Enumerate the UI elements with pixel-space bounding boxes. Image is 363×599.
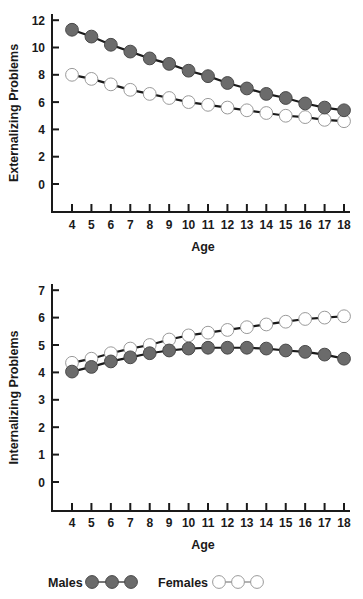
male-data-point [202,70,215,83]
male-data-point [279,344,292,357]
x-tick-label: 7 [127,218,134,232]
legend-item-males: Males [48,576,137,590]
male-data-point [240,82,253,95]
internalizing-problems-plot: 01234567456789101112131415161718AgeInter… [7,284,351,552]
y-tick-label: 4 [38,366,45,380]
female-data-point [143,88,156,101]
male-data-point [124,45,137,58]
y-tick-label: 10 [32,41,46,55]
male-data-point [143,52,156,65]
y-tick-label: 1 [38,448,45,462]
x-tick-label: 14 [260,516,274,530]
x-tick-label: 15 [279,516,293,530]
x-tick-label: 13 [240,516,254,530]
female-data-point [279,109,292,122]
x-tick-label: 10 [182,516,196,530]
y-tick-label: 0 [38,476,45,490]
y-axis-title: Internalizing Problems [7,330,21,464]
male-data-point [221,341,234,354]
male-data-point [202,341,215,354]
female-data-point [221,324,234,337]
female-data-point [202,326,215,339]
x-tick-label: 9 [166,218,173,232]
female-data-point [338,310,351,323]
x-tick-label: 6 [108,516,115,530]
y-tick-label: 7 [38,284,45,298]
x-tick-label: 4 [69,218,76,232]
legend-male-marker [125,576,138,589]
y-tick-label: 2 [38,421,45,435]
female-data-point [163,92,176,105]
x-axis-title: Age [191,240,215,254]
legend-item-females: Females [158,576,263,590]
y-tick-label: 12 [32,14,46,28]
y-tick-label: 6 [38,311,45,325]
female-data-point [182,329,195,342]
x-tick-label: 12 [221,218,235,232]
male-data-point [85,361,98,374]
legend-female-marker [232,576,245,589]
y-tick-label: 5 [38,339,45,353]
legend-male-marker [86,576,99,589]
male-data-point [104,355,117,368]
x-tick-label: 4 [69,516,76,530]
x-tick-label: 8 [146,218,153,232]
male-data-point [163,344,176,357]
female-data-point [240,321,253,334]
male-data-point [66,365,79,378]
y-tick-label: 3 [38,393,45,407]
male-data-point [299,97,312,110]
male-data-point [104,38,117,51]
male-data-point [279,92,292,105]
male-data-point [240,341,253,354]
legend-male-marker [106,576,119,589]
female-data-point [318,311,331,324]
x-axis-title: Age [191,538,215,552]
female-data-point [104,78,117,91]
female-data-point [85,72,98,85]
x-tick-label: 18 [337,218,351,232]
x-tick-label: 6 [108,218,115,232]
legend: MalesFemales [48,576,263,590]
male-data-point [85,30,98,43]
male-data-point [318,348,331,361]
female-data-point [202,98,215,111]
x-tick-label: 15 [279,218,293,232]
male-data-point [318,101,331,114]
x-tick-label: 17 [318,218,332,232]
x-tick-label: 18 [337,516,351,530]
x-tick-label: 12 [221,516,235,530]
female-data-point [182,96,195,109]
female-data-point [221,101,234,114]
male-data-point [260,342,273,355]
y-tick-label: 6 [38,96,45,110]
y-axis-title: Externalizing Problems [7,44,21,182]
x-tick-label: 16 [298,218,312,232]
male-data-point [338,104,351,117]
female-data-point [124,83,137,96]
x-tick-label: 9 [166,516,173,530]
female-data-point [299,111,312,124]
male-data-point [143,347,156,360]
male-data-point [299,345,312,358]
male-data-point [182,64,195,77]
male-data-point [182,342,195,355]
y-tick-label: 8 [38,68,45,82]
legend-label: Males [48,576,83,590]
x-tick-label: 7 [127,516,134,530]
female-data-point [240,104,253,117]
male-data-point [124,351,137,364]
externalizing-problems-plot: 024681012456789101112131415161718AgeExte… [7,14,351,254]
x-tick-label: 10 [182,218,196,232]
female-data-point [260,107,273,120]
male-data-point [338,352,351,365]
x-tick-label: 5 [88,218,95,232]
female-data-point [279,315,292,328]
x-tick-label: 17 [318,516,332,530]
y-tick-label: 2 [38,150,45,164]
x-tick-label: 8 [146,516,153,530]
female-data-point [318,113,331,126]
legend-female-marker [213,576,226,589]
male-data-point [66,23,79,36]
x-tick-label: 16 [298,516,312,530]
